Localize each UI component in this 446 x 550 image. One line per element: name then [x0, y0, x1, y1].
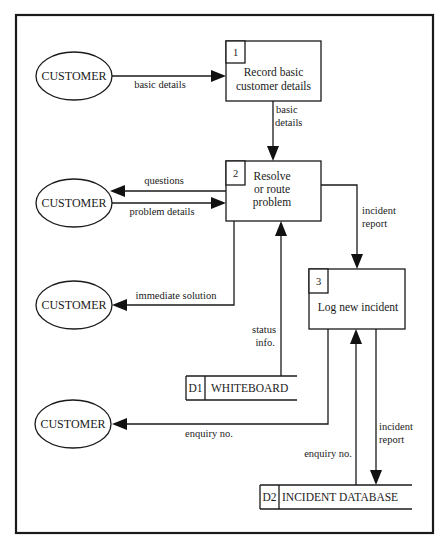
- arrowhead-left: [110, 185, 125, 197]
- data-store-d1: D1 WHITEBOARD: [186, 376, 297, 400]
- data-store-d2: D2 INCIDENT DATABASE: [260, 485, 412, 509]
- entity-label: CUSTOMER: [41, 298, 106, 312]
- entity-customer-3: CUSTOMER: [36, 281, 112, 329]
- store-code: D1: [188, 382, 202, 394]
- flow-label: immediate solution: [136, 290, 218, 301]
- process-label-line: problem: [253, 196, 291, 209]
- flow-label: incident: [379, 421, 413, 432]
- store-label: WHITEBOARD: [211, 382, 288, 394]
- data-flow-diagram: CUSTOMER CUSTOMER CUSTOMER CUSTOMER 1 Re…: [0, 0, 446, 550]
- flow-label: problem details: [129, 206, 194, 217]
- flow-label: basic details: [134, 79, 186, 90]
- flow-label: status: [252, 324, 276, 335]
- store-label: INCIDENT DATABASE: [282, 491, 398, 503]
- flow-incident-report-to-database: incident report: [370, 329, 413, 485]
- entity-customer-1: CUSTOMER: [36, 52, 112, 100]
- entity-label: CUSTOMER: [41, 196, 106, 210]
- arrowhead-down: [267, 146, 279, 161]
- arrowhead-down: [370, 470, 382, 485]
- process-number: 3: [316, 276, 321, 287]
- flow-label: info.: [255, 337, 275, 348]
- flow-status-info: status info.: [252, 221, 287, 376]
- entity-label: CUSTOMER: [40, 417, 105, 431]
- arrowhead-left: [112, 299, 127, 311]
- arrowhead-right: [211, 70, 226, 82]
- flow-incident-report-to-log: incident report: [321, 185, 396, 269]
- process-label-line: or route: [254, 183, 290, 195]
- arrowhead-left: [112, 418, 127, 430]
- process-label-line: Resolve: [253, 170, 290, 182]
- flow-label: report: [362, 218, 387, 229]
- flow-immediate-solution: immediate solution: [112, 221, 234, 311]
- flow-label: enquiry no.: [185, 428, 233, 439]
- flow-label: incident: [362, 205, 396, 216]
- process-1: 1 Record basic customer details: [226, 41, 321, 101]
- process-number: 2: [233, 168, 238, 179]
- flow-label: report: [379, 434, 404, 445]
- flow-basic-details: basic details: [112, 70, 226, 90]
- process-2: 2 Resolve or route problem: [226, 161, 321, 221]
- flow-line: [321, 185, 357, 254]
- process-label-line: Log new incident: [318, 301, 399, 314]
- arrowhead-up: [350, 329, 362, 344]
- flow-basic-details-to-resolve: basic details: [267, 101, 302, 161]
- flow-problem-details: problem details: [112, 197, 226, 217]
- flow-enquiry-no-to-log: enquiry no.: [304, 329, 362, 485]
- flow-questions: questions: [110, 175, 226, 197]
- process-label-line: customer details: [236, 80, 312, 92]
- flow-label: enquiry no.: [304, 448, 352, 459]
- store-code: D2: [262, 491, 276, 503]
- flow-label: details: [275, 117, 302, 128]
- arrowhead-up: [275, 221, 287, 236]
- entity-customer-2: CUSTOMER: [36, 179, 112, 227]
- arrowhead-right: [211, 197, 226, 209]
- arrowhead-down: [351, 254, 363, 269]
- process-number: 1: [233, 47, 238, 58]
- flow-label: questions: [144, 175, 184, 186]
- entity-customer-4: CUSTOMER: [35, 400, 111, 448]
- process-label-line: Record basic: [244, 66, 304, 78]
- entity-label: CUSTOMER: [41, 69, 106, 83]
- process-3: 3 Log new incident: [309, 269, 405, 329]
- flow-label: basic: [276, 104, 298, 115]
